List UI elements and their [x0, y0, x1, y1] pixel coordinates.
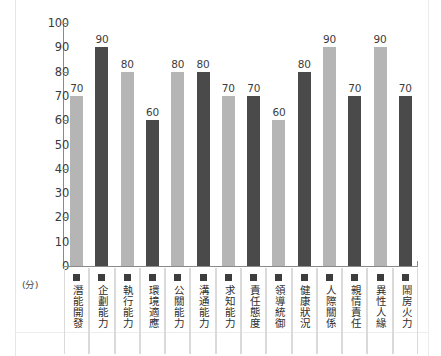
category-label: 領導統御	[273, 285, 285, 329]
category-marker-icon	[124, 274, 131, 281]
category-cell[interactable]: 健康狀況	[292, 268, 317, 354]
y-axis-tick-label: 80	[20, 66, 69, 78]
category-label: 人際關係	[324, 285, 336, 329]
bar[interactable]	[399, 96, 412, 266]
bar[interactable]	[95, 47, 108, 266]
category-marker-icon	[98, 274, 105, 281]
y-axis-tick-label: 30	[20, 187, 69, 199]
category-marker-icon	[225, 274, 232, 281]
category-label: 責任態度	[248, 285, 260, 329]
category-cell[interactable]: 執行能力	[115, 268, 140, 354]
category-label: 健康狀況	[298, 285, 310, 329]
bar-value-label: 70	[393, 82, 418, 94]
bar[interactable]	[121, 72, 134, 266]
category-cell[interactable]: 企劃能力	[89, 268, 114, 354]
bar-slot: 90	[317, 23, 342, 266]
bar-value-label: 60	[140, 106, 165, 118]
category-marker-icon	[301, 274, 308, 281]
category-label: 公關能力	[172, 285, 184, 329]
bar-value-label: 80	[165, 58, 190, 70]
category-label: 環境適應	[147, 285, 159, 329]
category-cell[interactable]: 鬧房火力	[393, 268, 418, 354]
category-label: 執行能力	[121, 285, 133, 329]
plot-area: 7090806080807070608090709070	[64, 23, 418, 266]
bar-slot: 60	[140, 23, 165, 266]
category-marker-icon	[250, 274, 257, 281]
category-label: 求知能力	[223, 285, 235, 329]
bar-value-label: 80	[115, 58, 140, 70]
bar[interactable]	[298, 72, 311, 266]
y-axis-tick-label: 0	[20, 260, 69, 272]
y-axis-tick-label: 10	[20, 236, 69, 248]
bar-slot: 70	[216, 23, 241, 266]
bar-slot: 80	[190, 23, 215, 266]
category-marker-icon	[174, 274, 181, 281]
y-axis-unit-label: (分)	[22, 277, 38, 291]
category-cell[interactable]: 求知能力	[216, 268, 241, 354]
category-marker-icon	[275, 274, 282, 281]
bar-slot: 70	[393, 23, 418, 266]
category-label-strip: 潛能開發企劃能力執行能力環境適應公關能力溝通能力求知能力責任態度領導統御健康狀況…	[64, 268, 418, 356]
category-label: 異性人緣	[374, 285, 386, 329]
category-cell[interactable]: 親情責任	[342, 268, 367, 354]
category-marker-icon	[149, 274, 156, 281]
bar[interactable]	[222, 96, 235, 266]
bar[interactable]	[70, 96, 83, 266]
category-cell[interactable]: 溝通能力	[190, 268, 215, 354]
category-cell[interactable]: 人際關係	[317, 268, 342, 354]
bar-value-label: 70	[241, 82, 266, 94]
category-marker-icon	[402, 274, 409, 281]
y-axis-tick-label: 40	[20, 163, 69, 175]
bar-slot: 60	[266, 23, 291, 266]
y-axis-tick-label: 70	[20, 90, 69, 102]
bar-chart: 1009080706050403020100 (分) 7090806080807…	[0, 0, 441, 356]
bar[interactable]	[171, 72, 184, 266]
bar-value-label: 80	[190, 58, 215, 70]
bar-value-label: 70	[342, 82, 367, 94]
category-cell[interactable]: 責任態度	[241, 268, 266, 354]
bar-value-label: 90	[367, 33, 392, 45]
bar[interactable]	[146, 120, 159, 266]
bar[interactable]	[323, 47, 336, 266]
category-cell[interactable]: 領導統御	[266, 268, 291, 354]
category-marker-icon	[377, 274, 384, 281]
category-label: 企劃能力	[96, 285, 108, 329]
category-marker-icon	[73, 274, 80, 281]
y-axis-tick-label: 20	[20, 211, 69, 223]
bar[interactable]	[348, 96, 361, 266]
bar[interactable]	[272, 120, 285, 266]
y-axis-tick-label: 90	[20, 41, 69, 53]
category-cell[interactable]: 異性人緣	[367, 268, 392, 354]
category-cell[interactable]: 公關能力	[165, 268, 190, 354]
y-axis-tick-label: 60	[20, 114, 69, 126]
bar-slot: 70	[342, 23, 367, 266]
x-axis-line	[63, 266, 418, 267]
category-cell[interactable]: 潛能開發	[64, 268, 89, 354]
category-label: 溝通能力	[197, 285, 209, 329]
bar-slot: 80	[292, 23, 317, 266]
y-axis-tick-label: 50	[20, 139, 69, 151]
bar-slot: 80	[115, 23, 140, 266]
category-cell[interactable]: 環境適應	[140, 268, 165, 354]
category-label: 親情責任	[349, 285, 361, 329]
bar-slot: 70	[64, 23, 89, 266]
bar-value-label: 90	[89, 33, 114, 45]
bar-slot: 70	[241, 23, 266, 266]
bar-slot: 80	[165, 23, 190, 266]
bar-value-label: 70	[64, 82, 89, 94]
category-label: 鬧房火力	[400, 285, 412, 329]
bar[interactable]	[374, 47, 387, 266]
bar-slot: 90	[367, 23, 392, 266]
category-label: 潛能開發	[71, 285, 83, 329]
bar-value-label: 80	[292, 58, 317, 70]
bar-value-label: 60	[266, 106, 291, 118]
bar-value-label: 70	[216, 82, 241, 94]
category-marker-icon	[351, 274, 358, 281]
category-marker-icon	[200, 274, 207, 281]
y-axis-tick-label: 100	[20, 17, 69, 29]
bar[interactable]	[197, 72, 210, 266]
bar[interactable]	[247, 96, 260, 266]
category-marker-icon	[326, 274, 333, 281]
bar-value-label: 90	[317, 33, 342, 45]
bar-slot: 90	[89, 23, 114, 266]
